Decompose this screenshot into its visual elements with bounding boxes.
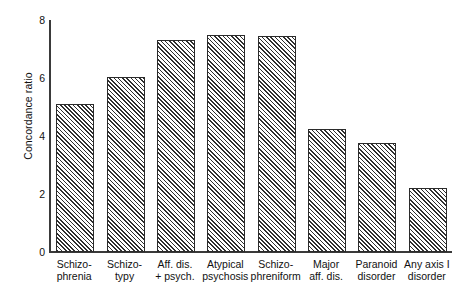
x-axis-category-label: Aff. dis.+ psych.	[150, 258, 200, 283]
x-axis-label-line-2: aff. dis.	[301, 270, 351, 282]
x-axis-label-line-1: Atypical	[207, 258, 244, 270]
x-axis-category-label: Schizo-phrenia	[49, 258, 99, 283]
x-axis-label-line-1: Schizo-	[107, 258, 142, 270]
bar	[207, 35, 245, 253]
plot-area	[49, 20, 452, 252]
bar	[308, 129, 346, 252]
x-axis-label-line-1: Any axis I	[404, 258, 450, 270]
x-axis-category-label: Any axis Idisorder	[402, 258, 452, 283]
bar-chart-figure: Concordance ratio 02468 Schizo-phreniaSc…	[0, 0, 456, 307]
y-axis-tick-label: 0	[23, 246, 45, 258]
bar	[358, 143, 396, 252]
y-axis-tick-label: 8	[23, 14, 45, 26]
x-axis-label-line-1: Aff. dis.	[158, 258, 193, 270]
x-axis-category-label: Schizo-typy	[99, 258, 149, 283]
x-axis-label-line-2: disorder	[402, 270, 452, 282]
x-axis-category-label: Atypicalpsychosis	[200, 258, 250, 283]
x-axis-category-labels: Schizo-phreniaSchizo-typyAff. dis.+ psyc…	[49, 258, 452, 298]
bar	[107, 77, 145, 252]
x-axis-label-line-1: Schizo-	[57, 258, 92, 270]
y-axis-tick-label: 6	[23, 72, 45, 84]
y-axis-tick-label: 2	[23, 188, 45, 200]
bar	[409, 188, 447, 252]
x-axis-category-label: Paranoiddisorder	[351, 258, 401, 283]
x-axis-label-line-2: disorder	[351, 270, 401, 282]
bar	[157, 40, 195, 252]
x-axis-label-line-1: Paranoid	[355, 258, 397, 270]
x-axis-label-line-2: psychosis	[200, 270, 250, 282]
x-axis-label-line-2: phreniform	[251, 270, 301, 282]
x-axis-category-label: Schizo-phreniform	[251, 258, 301, 283]
y-axis-tick-labels: 02468	[19, 0, 45, 307]
x-axis-category-label: Majoraff. dis.	[301, 258, 351, 283]
x-axis-label-line-2: + psych.	[150, 270, 200, 282]
y-axis-tick-label: 4	[23, 130, 45, 142]
bar	[56, 104, 94, 252]
x-axis-label-line-1: Schizo-	[258, 258, 293, 270]
bar	[258, 36, 296, 252]
x-axis-label-line-2: typy	[99, 270, 149, 282]
x-axis-label-line-1: Major	[313, 258, 339, 270]
x-axis-label-line-2: phrenia	[49, 270, 99, 282]
